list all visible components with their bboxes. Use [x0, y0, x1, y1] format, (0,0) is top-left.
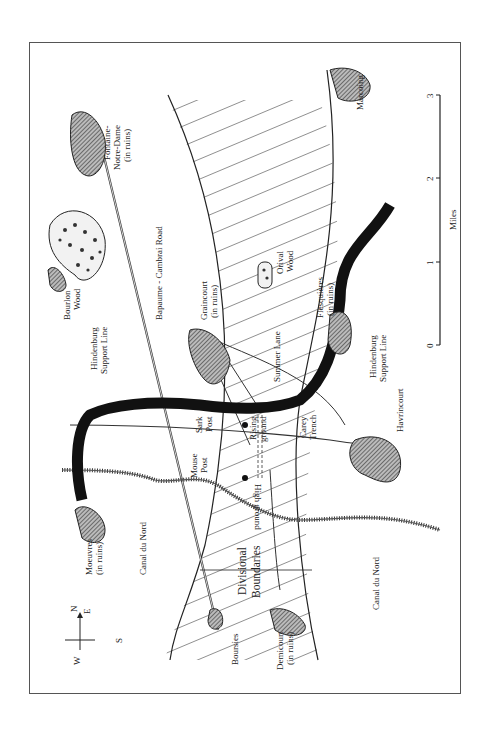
- fontaine-notre-dame: [71, 112, 106, 176]
- svg-text:Flesquières: Flesquières: [315, 277, 325, 318]
- svg-text:2: 2: [425, 177, 435, 182]
- svg-text:Wood: Wood: [72, 288, 82, 310]
- svg-text:Bapaume - Cambrai Road: Bapaume - Cambrai Road: [154, 226, 164, 320]
- svg-text:(in ruins): (in ruins): [122, 129, 132, 162]
- svg-text:Post: Post: [199, 457, 209, 473]
- svg-text:Orival: Orival: [275, 251, 285, 274]
- map-canvas: N E S W 0 1 2 3 Miles Fontaine- Notre-Da…: [0, 0, 489, 733]
- havrincourt: [350, 437, 401, 482]
- svg-text:Marcoing: Marcoing: [355, 75, 365, 110]
- scale-bar: 0 1 2 3 Miles: [425, 93, 458, 348]
- svg-text:1: 1: [425, 261, 435, 266]
- svg-text:Fontaine-: Fontaine-: [102, 126, 112, 161]
- svg-text:Graincourt: Graincourt: [199, 281, 209, 320]
- svg-text:(in ruins): (in ruins): [94, 542, 104, 575]
- svg-text:High ground: High ground: [253, 484, 263, 530]
- small-wood: [48, 268, 66, 292]
- hatched-zone: [150, 0, 340, 720]
- compass-w: W: [72, 656, 82, 665]
- orival-wood: [258, 262, 272, 288]
- svg-text:Boursies: Boursies: [230, 633, 240, 665]
- compass-s: S: [114, 638, 124, 643]
- svg-text:Summer Lane: Summer Lane: [272, 331, 282, 382]
- svg-text:Miles: Miles: [448, 209, 458, 230]
- road-mouse-havrincourt: [70, 425, 385, 445]
- svg-text:Post: Post: [204, 416, 214, 432]
- svg-text:ground: ground: [258, 416, 268, 442]
- svg-text:Canal du Nord: Canal du Nord: [371, 557, 381, 610]
- svg-text:Wood: Wood: [285, 250, 295, 272]
- svg-text:Moeuvres: Moeuvres: [84, 539, 94, 575]
- svg-text:Divisional: Divisional: [236, 547, 248, 595]
- demicourt: [270, 609, 305, 636]
- moeuvres: [75, 507, 105, 543]
- svg-text:Support Line: Support Line: [99, 327, 109, 374]
- compass-n: N: [69, 605, 79, 612]
- svg-text:(in ruins): (in ruins): [325, 283, 335, 316]
- svg-text:(in ruins): (in ruins): [209, 285, 219, 318]
- high-ground-road: [270, 470, 280, 590]
- svg-text:Sark: Sark: [194, 416, 204, 433]
- svg-text:Hindenburg: Hindenburg: [89, 327, 99, 370]
- svg-text:Demicourt: Demicourt: [275, 631, 285, 670]
- svg-text:Mouse: Mouse: [189, 453, 199, 478]
- svg-text:Havrincourt: Havrincourt: [395, 388, 405, 432]
- svg-text:Bourlon: Bourlon: [62, 290, 72, 320]
- flesquieres: [328, 312, 351, 354]
- svg-text:Rising: Rising: [248, 416, 258, 440]
- place-labels: Fontaine- Notre-Dame (in ruins) Bourlon …: [62, 75, 405, 670]
- compass-e: E: [82, 608, 92, 614]
- svg-text:Boundaries: Boundaries: [250, 545, 262, 598]
- svg-text:Canal du Nord: Canal du Nord: [138, 522, 148, 575]
- mouse-post-marker: [242, 475, 248, 481]
- svg-text:Notre-Dame: Notre-Dame: [112, 125, 122, 170]
- svg-text:(in ruins): (in ruins): [285, 632, 295, 665]
- svg-text:Support Line: Support Line: [378, 335, 388, 382]
- graincourt: [189, 329, 230, 384]
- svg-text:0: 0: [425, 343, 435, 348]
- svg-text:Carey: Carey: [298, 416, 308, 438]
- boursies: [208, 609, 223, 629]
- svg-text:Hindenburg: Hindenburg: [368, 335, 378, 378]
- svg-text:Trench: Trench: [308, 414, 318, 440]
- compass-rose: N E S W: [65, 605, 124, 665]
- svg-text:3: 3: [425, 93, 435, 98]
